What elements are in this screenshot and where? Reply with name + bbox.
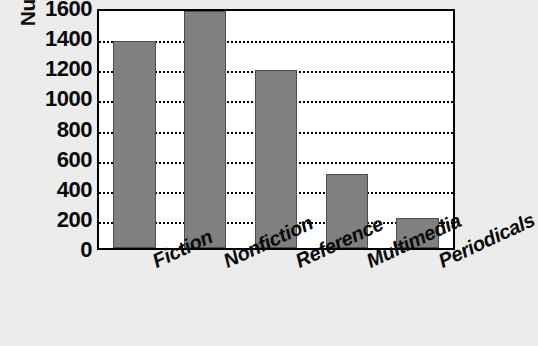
y-axis-tick-labels: 02004006008001000120014001600	[38, 9, 92, 250]
bars-layer	[99, 11, 453, 248]
bar-slot	[241, 11, 312, 248]
y-tick-label: 0	[38, 239, 92, 261]
y-tick-label: 1000	[38, 88, 92, 110]
bar-slot	[382, 11, 453, 248]
plot-area	[97, 9, 455, 250]
y-tick-label: 600	[38, 149, 92, 171]
y-tick-label: 1600	[38, 0, 92, 20]
y-tick-label: 1400	[38, 28, 92, 50]
y-tick-label: 200	[38, 209, 92, 231]
y-tick-label: 800	[38, 119, 92, 141]
bar[interactable]	[184, 11, 226, 248]
y-tick-label: 400	[38, 179, 92, 201]
y-tick-label: 1200	[38, 58, 92, 80]
bar[interactable]	[113, 41, 155, 248]
x-axis-tick-labels: FictionNonfictionReferenceMultimediaPeri…	[97, 252, 455, 346]
bar-slot	[311, 11, 382, 248]
bar-slot	[99, 11, 170, 248]
bar-slot	[170, 11, 241, 248]
